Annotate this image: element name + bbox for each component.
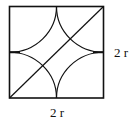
geometry-diagram: 2 r 2 r — [0, 0, 138, 126]
arc-bottom-right — [57, 52, 104, 98]
label-right-dimension: 2 r — [114, 45, 129, 60]
arc-top-left — [10, 7, 57, 53]
label-bottom-dimension: 2 r — [50, 105, 65, 120]
diagonal-line — [10, 7, 104, 99]
